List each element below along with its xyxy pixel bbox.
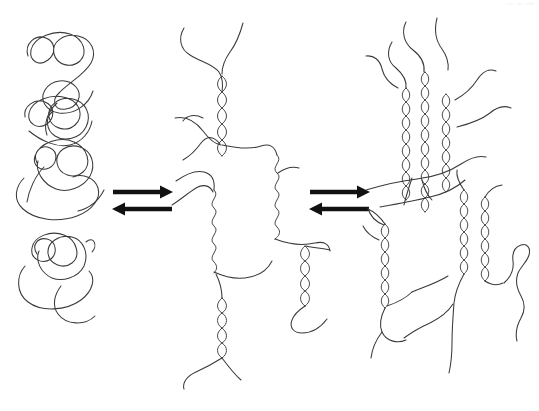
figure-root [0, 0, 539, 411]
diagram-canvas [0, 0, 539, 411]
canvas-background [0, 0, 539, 411]
